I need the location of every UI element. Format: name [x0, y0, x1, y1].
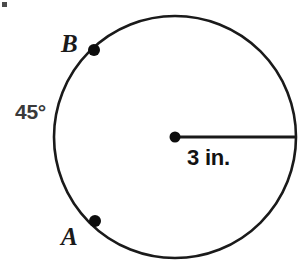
point-a-dot: [89, 215, 101, 227]
point-b-dot: [88, 44, 100, 56]
point-b-label: B: [61, 31, 78, 56]
circle-diagram-svg: [0, 0, 301, 266]
radius-length-label: 3 in.: [187, 147, 230, 169]
arc-angle-label: 45°: [15, 101, 46, 122]
center-point-dot: [170, 132, 181, 143]
point-a-label: A: [61, 224, 78, 249]
geometry-figure: 45° 3 in. B A: [0, 0, 301, 266]
